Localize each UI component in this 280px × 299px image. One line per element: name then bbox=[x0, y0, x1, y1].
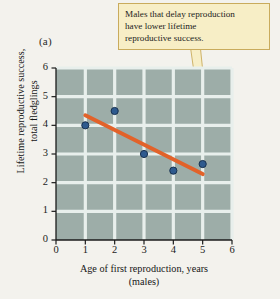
x-tick-label: 4 bbox=[166, 244, 180, 255]
panel-label: (a) bbox=[39, 35, 52, 47]
x-tick-label: 3 bbox=[137, 244, 151, 255]
figure-panel: (a) Males that delay reproduction have l… bbox=[0, 0, 280, 299]
callout-line-1: Males that delay reproduction bbox=[125, 8, 264, 20]
callout-box: Males that delay reproduction have lower… bbox=[118, 3, 270, 50]
y-tick-label: 0 bbox=[34, 233, 48, 244]
y-tick-label: 1 bbox=[34, 204, 48, 215]
x-tick-label: 6 bbox=[225, 244, 239, 255]
x-tick-label: 5 bbox=[196, 244, 210, 255]
x-tick-label: 2 bbox=[108, 244, 122, 255]
x-tick-label: 1 bbox=[78, 244, 92, 255]
x-axis-title-line-2: (males) bbox=[44, 275, 244, 288]
y-axis-title-line-1: Lifetime reproductive success, bbox=[14, 21, 27, 201]
y-axis-title-line-2: total fledglings bbox=[27, 21, 40, 201]
y-axis-title: Lifetime reproductive success, total fle… bbox=[14, 21, 40, 201]
x-axis-title: Age of first reproduction, years (males) bbox=[44, 262, 244, 289]
callout-line-2: have lower lifetime bbox=[125, 20, 264, 32]
x-tick-label: 0 bbox=[49, 244, 63, 255]
callout-line-3: reproductive success. bbox=[125, 32, 264, 44]
axis-lines bbox=[40, 60, 250, 260]
x-axis-title-line-1: Age of first reproduction, years bbox=[44, 262, 244, 275]
